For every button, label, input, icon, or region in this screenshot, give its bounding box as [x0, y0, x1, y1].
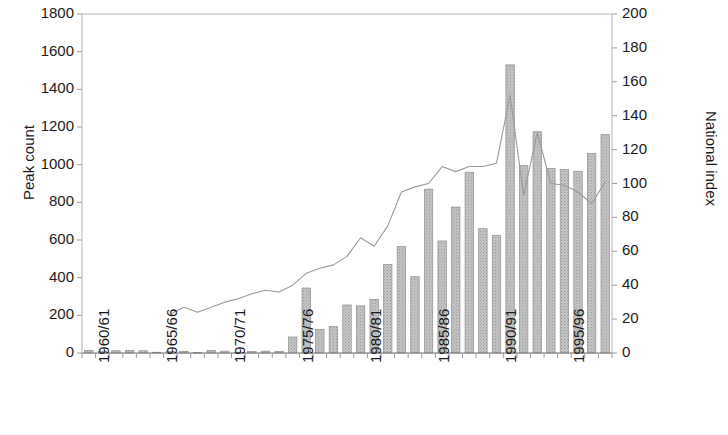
bar [316, 329, 324, 353]
y-axis-right-tick-label: 40 [622, 275, 666, 292]
plot-area [0, 0, 728, 435]
y-axis-left-tick-label: 600 [20, 230, 74, 247]
y-axis-left-ticks [77, 14, 82, 353]
y-axis-right-tick-label: 0 [622, 343, 666, 360]
bar [343, 305, 351, 353]
x-axis-tick-label: 1960/61 [95, 309, 112, 363]
bar [479, 229, 487, 353]
y-axis-right-tick-label: 80 [622, 207, 666, 224]
x-axis-tick-label: 1965/66 [163, 309, 180, 363]
bar [356, 306, 364, 353]
y-axis-right-tick-label: 140 [622, 106, 666, 123]
bar [397, 247, 405, 353]
y-axis-right-tick-label: 20 [622, 309, 666, 326]
bar [560, 169, 568, 353]
axis-frame [82, 14, 612, 353]
y-axis-right-tick-label: 100 [622, 174, 666, 191]
y-axis-right-ticks [612, 14, 617, 353]
bar [547, 168, 555, 353]
y-axis-right-tick-label: 180 [622, 38, 666, 55]
y-axis-left-tick-label: 1800 [20, 4, 74, 21]
x-axis-tick-label: 1980/81 [367, 309, 384, 363]
bar [533, 132, 541, 353]
y-axis-left-tick-label: 1200 [20, 117, 74, 134]
y-axis-left-tick-label: 0 [20, 343, 74, 360]
bar [424, 189, 432, 353]
bar [384, 264, 392, 353]
y-axis-right-tick-label: 160 [622, 72, 666, 89]
x-axis-tick-label: 1975/76 [299, 309, 316, 363]
bar [329, 327, 337, 353]
y-axis-left-tick-label: 200 [20, 305, 74, 322]
y-axis-left-tick-label: 1600 [20, 42, 74, 59]
y-axis-left-tick-label: 800 [20, 192, 74, 209]
bar [411, 277, 419, 353]
y-axis-left-tick-label: 1000 [20, 155, 74, 172]
bar [452, 207, 460, 353]
bar [587, 153, 595, 353]
x-axis-tick-label: 1995/96 [570, 309, 587, 363]
bar [465, 172, 473, 353]
y-axis-right-tick-label: 60 [622, 241, 666, 258]
x-axis-ticks [82, 353, 612, 358]
y-axis-left-tick-label: 400 [20, 268, 74, 285]
x-axis-tick-label: 1985/86 [435, 309, 452, 363]
y-axis-left-tick-label: 1400 [20, 79, 74, 96]
x-axis-tick-label: 1990/91 [502, 309, 519, 363]
bar [288, 337, 296, 353]
bar [601, 135, 609, 353]
y-axis-right-tick-label: 200 [622, 4, 666, 21]
y-axis-right-tick-label: 120 [622, 140, 666, 157]
chart-figure: Peak count National index 02004006008001… [0, 0, 728, 435]
bar [492, 235, 500, 353]
x-axis-tick-label: 1970/71 [231, 309, 248, 363]
